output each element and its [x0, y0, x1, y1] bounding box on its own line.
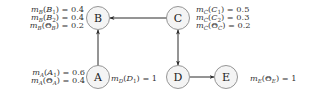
mass-labels-b: mB(B1) = 0.4mB(B2) = 0.4mB(ΘB) = 0.2: [30, 4, 84, 31]
mass-label-e-1: mE(ΘE) = 1: [250, 73, 296, 84]
mass-labels-c: mC(C1) = 0.5mC(C2) = 0.3mC(ΘC) = 0.2: [196, 4, 251, 31]
node-a-label: A: [93, 71, 103, 84]
node-b-label: B: [94, 12, 102, 25]
mass-labels-d: mD(D1) = 1: [111, 73, 157, 84]
mass-function-graph: B A C D E mB(B1) = 0.4mB(B2) = 0.4mB(ΘB)…: [0, 0, 322, 98]
mass-labels-a: mA(A1) = 0.6mA(ΘA) = 0.4: [31, 67, 85, 86]
node-a: A: [87, 66, 110, 89]
node-d: D: [167, 66, 190, 89]
node-d-label: D: [174, 71, 183, 84]
mass-label-d-1: mD(D1) = 1: [111, 73, 157, 84]
node-e-label: E: [222, 71, 230, 84]
node-c-label: C: [174, 12, 182, 25]
node-c: C: [167, 7, 190, 30]
node-b: B: [87, 7, 110, 30]
mass-labels-e: mE(ΘE) = 1: [250, 73, 296, 84]
node-e: E: [215, 66, 238, 89]
